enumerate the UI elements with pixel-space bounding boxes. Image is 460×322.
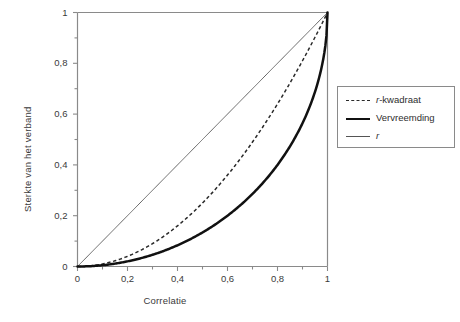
- y-axis-ticks: [73, 13, 78, 267]
- x-axis-ticks: [78, 267, 328, 272]
- y-axis-title: Sterkte van het verband: [22, 107, 33, 212]
- y-tick-label: 0: [38, 261, 68, 272]
- x-tick-label: 1: [313, 273, 343, 284]
- y-tick-label: 0,6: [38, 108, 68, 119]
- x-tick-label: 0,2: [113, 273, 143, 284]
- legend-label-italic-r2: r: [376, 130, 379, 141]
- y-tick-label: 0,8: [38, 57, 68, 68]
- legend-item-vervreemding: Vervreemding: [346, 110, 435, 126]
- y-tick-label: 0,2: [38, 210, 68, 221]
- legend-label-plain-kwadraat: -kwadraat: [379, 94, 421, 105]
- series-line-r: [78, 13, 328, 267]
- legend-swatch-dashed-icon: [346, 95, 370, 105]
- legend-item-r-kwadraat: r-kwadraat: [346, 92, 421, 108]
- legend-label-vervreemding: Vervreemding: [376, 113, 435, 123]
- x-tick-label: 0,6: [213, 273, 243, 284]
- y-tick-label: 0,4: [38, 159, 68, 170]
- legend-swatch-thick-solid-icon: [346, 113, 370, 123]
- chart-figure: 00,20,40,60,81 00,20,40,60,81 Correlatie…: [0, 0, 460, 322]
- legend-label-r: r: [376, 131, 379, 141]
- x-tick-label: 0,4: [163, 273, 193, 284]
- x-tick-label: 0,8: [263, 273, 293, 284]
- y-tick-label: 1: [38, 7, 68, 18]
- legend-label-plain-vervreemding: Vervreemding: [376, 112, 435, 123]
- legend-label-r-kwadraat: r-kwadraat: [376, 95, 421, 105]
- chart-legend: r-kwadraat Vervreemding r: [337, 86, 455, 148]
- legend-swatch-thin-solid-icon: [346, 131, 370, 141]
- legend-item-r: r: [346, 128, 379, 144]
- x-axis-title: Correlatie: [0, 295, 330, 306]
- x-tick-label: 0: [63, 273, 93, 284]
